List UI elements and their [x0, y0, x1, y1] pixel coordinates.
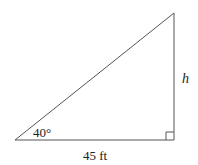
- triangle-diagram: 40° 45 ft h: [0, 0, 198, 165]
- base-label: 45 ft: [83, 148, 108, 163]
- height-label: h: [182, 71, 189, 86]
- triangle: [15, 13, 174, 140]
- angle-label: 40°: [33, 125, 51, 140]
- right-angle-marker: [166, 132, 174, 140]
- hypotenuse: [15, 13, 174, 140]
